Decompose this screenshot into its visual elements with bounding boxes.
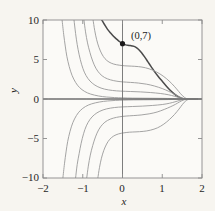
y-tick-label-0: 0 <box>6 94 39 105</box>
y-tick-label-10: 10 <box>6 15 39 26</box>
annotation-point-marker <box>120 41 125 46</box>
y-tick-label-minus10: −10 <box>6 172 39 183</box>
x-tick-label-minus2: −2 <box>31 183 55 194</box>
x-tick-label-0: 0 <box>110 183 134 194</box>
figure-container: 10 5 0 −5 −10 −2 −1 0 1 2 y x (0,7) <box>0 0 215 211</box>
point-annotation-label: (0,7) <box>131 31 151 42</box>
x-tick-label-minus1: −1 <box>71 183 95 194</box>
y-axis-label: y <box>8 88 19 93</box>
x-tick-label-1: 1 <box>150 183 174 194</box>
annotation-markers-group <box>120 41 125 46</box>
x-tick-label-2: 2 <box>190 183 214 194</box>
x-axis-label: x <box>118 196 130 207</box>
y-tick-label-minus5: −5 <box>6 133 39 144</box>
y-tick-label-5: 5 <box>6 54 39 65</box>
